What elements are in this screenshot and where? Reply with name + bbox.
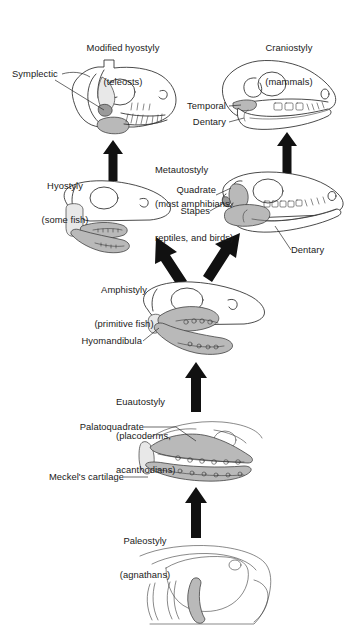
label-dentary-top: Dentary (158, 116, 226, 127)
label-hyostyly-line2: (some fish) (22, 214, 108, 225)
arrow-euautostyly-to-amphistyly (185, 362, 207, 412)
label-paleostyly: Paleostyly (agnathans) (106, 513, 184, 603)
label-craniostyly: Craniostyly (mammals) (234, 20, 344, 110)
label-dentary-mid: Dentary (291, 244, 324, 255)
label-temporal: Temporal (158, 100, 226, 111)
label-stapes: Stapes (148, 205, 210, 216)
label-craniostyly-line2: (mammals) (234, 76, 344, 87)
label-modified-hyostyly-line2: (teleosts) (58, 76, 188, 87)
skull-metautostyly (222, 172, 343, 232)
label-symplectic: Symplectic (12, 68, 58, 79)
label-meckels-cartilage: Meckel's cartilage (18, 471, 124, 482)
label-metautostyly: Metautostyly (most amphibians, reptiles,… (155, 142, 233, 265)
arrow-paleostyly-to-euautostyly (185, 487, 207, 538)
label-euautostyly-line1: Euautostyly (116, 396, 176, 407)
label-palatoquadrate: Palatoquadrate (56, 421, 144, 432)
label-hyostyly: Hyostyly (some fish) (22, 158, 108, 248)
label-amphistyly-line2: (primitive fish) (78, 318, 170, 329)
label-modified-hyostyly-line1: Modified hyostyly (58, 42, 188, 53)
label-hyostyly-line1: Hyostyly (22, 180, 108, 191)
label-euautostyly: Euautostyly (placoderms, acanthodians) (116, 374, 176, 497)
label-modified-hyostyly: Modified hyostyly (teleosts) (58, 20, 188, 110)
label-paleostyly-line1: Paleostyly (106, 535, 184, 546)
label-amphistyly-line1: Amphistyly (78, 284, 170, 295)
jaw-suspension-evolution-figure: Modified hyostyly (teleosts) Craniostyly… (0, 0, 352, 630)
label-metautostyly-line1: Metautostyly (155, 164, 233, 175)
gill-arch-shaded (188, 578, 205, 623)
label-metautostyly-line3: reptiles, and birds) (155, 232, 233, 243)
arrow-metautostyly-to-craniostyly (277, 132, 297, 174)
label-euautostyly-line3: acanthodians) (116, 464, 176, 475)
label-hyomandibula: Hyomandibula (64, 335, 142, 346)
label-craniostyly-line1: Craniostyly (234, 42, 344, 53)
label-paleostyly-line2: (agnathans) (106, 569, 184, 580)
label-quadrate: Quadrate (148, 184, 216, 195)
